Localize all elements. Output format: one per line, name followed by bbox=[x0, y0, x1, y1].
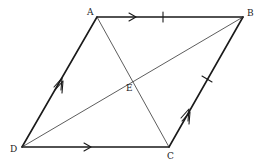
double-arrow-cb-icon bbox=[181, 109, 190, 124]
vertex-label-b: B bbox=[247, 8, 254, 18]
parallelogram-diagram: A B C D E bbox=[0, 0, 266, 166]
diagonal-db bbox=[22, 17, 243, 147]
intersection-label-e: E bbox=[126, 83, 133, 93]
side-bc bbox=[169, 17, 243, 147]
vertex-label-a: A bbox=[86, 7, 94, 17]
vertex-label-d: D bbox=[10, 144, 17, 154]
side-da bbox=[22, 17, 97, 147]
vertex-label-c: C bbox=[167, 151, 174, 161]
